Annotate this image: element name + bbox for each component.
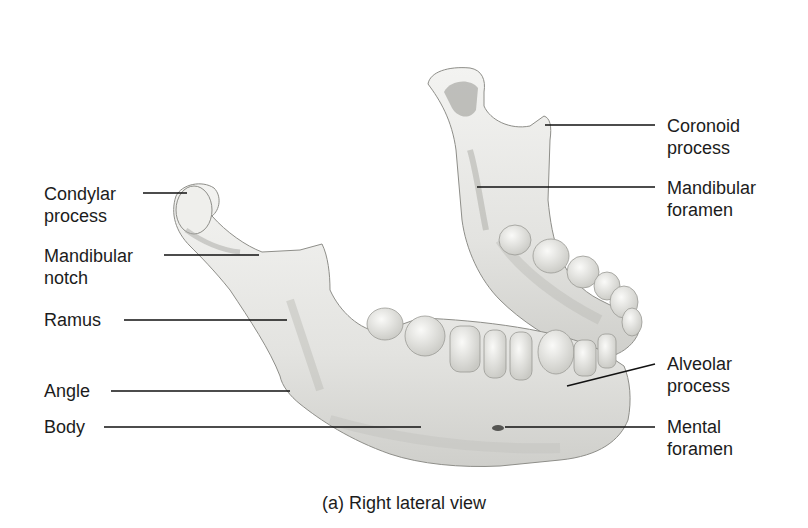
figure-caption: (a) Right lateral view: [0, 493, 808, 514]
label-coronoid-process: Coronoid process: [667, 115, 740, 159]
label-ramus: Ramus: [44, 309, 101, 331]
label-text: Mental: [667, 416, 733, 438]
label-text: process: [667, 375, 732, 397]
label-mandibular-foramen: Mandibular foramen: [667, 177, 756, 221]
label-text: process: [667, 137, 740, 159]
far-ramus: [428, 68, 640, 356]
label-text: Body: [44, 416, 85, 438]
label-mental-foramen: Mental foramen: [667, 416, 733, 460]
label-text: Angle: [44, 380, 90, 402]
label-alveolar-process: Alveolar process: [667, 353, 732, 397]
label-text: Alveolar: [667, 353, 732, 375]
label-text: Mandibular: [667, 177, 756, 199]
label-text: Mandibular: [44, 245, 133, 267]
label-body: Body: [44, 416, 85, 438]
label-condylar-process: Condylar process: [44, 183, 116, 227]
label-text: Coronoid: [667, 115, 740, 137]
label-text: Condylar: [44, 183, 116, 205]
label-angle: Angle: [44, 380, 90, 402]
label-text: foramen: [667, 199, 756, 221]
label-text: Ramus: [44, 309, 101, 331]
label-text: notch: [44, 267, 133, 289]
label-text: foramen: [667, 438, 733, 460]
label-text: process: [44, 205, 116, 227]
label-mandibular-notch: Mandibular notch: [44, 245, 133, 289]
mandible-figure: Condylar process Mandibular notch Ramus …: [0, 0, 808, 528]
